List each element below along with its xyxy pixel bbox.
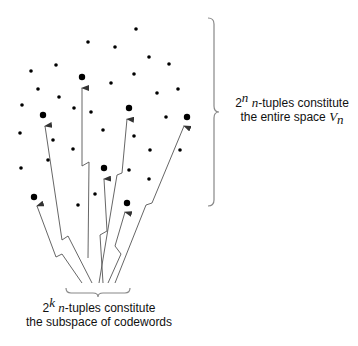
codeword-dot [101,165,107,171]
ntuple-dot [132,72,136,76]
ntuple-dot [89,110,93,114]
ntuple-dot [18,131,22,135]
mapping-arrow [108,212,125,283]
right-brace [208,18,219,206]
ntuple-dot [113,45,117,49]
ntuple-dot [54,63,58,67]
ntuple-dot [36,87,40,91]
ntuple-dot [93,192,97,196]
codeword-dot [124,200,130,206]
mapping-arrows [37,88,184,283]
mapping-arrow [100,179,107,283]
bottom-brace [66,288,130,297]
codeword-dot [40,112,46,118]
ntuple-dot [86,40,90,44]
mapping-arrow [37,206,82,283]
mapping-arrow [45,126,92,283]
ntuple-dot [72,106,76,110]
ntuple-dot [57,95,61,99]
codeword-dot [184,114,190,120]
ntuple-dot [29,69,33,73]
ntuple-dot [127,168,131,172]
mapping-arrow [82,88,89,258]
ntuple-dot [71,147,75,151]
ntuple-dot [155,91,159,95]
ntuple-dot [147,177,151,181]
ntuple-dot [20,103,24,107]
ntuple-dot [134,27,138,31]
ntuple-dot [109,81,113,85]
ntuple-dot [147,55,151,59]
ntuple-dot [132,134,136,138]
codeword-dot [126,105,132,111]
ntuple-dot [101,128,105,132]
ntuple-dot [148,148,152,152]
ntuple-dot [51,138,55,142]
ntuple-dot [176,87,180,91]
ntuple-dot [19,166,23,170]
mapping-arrow [99,119,127,283]
ntuple-dot [46,158,50,162]
entire-space-label: 2n n-tuples constitute the entire space … [226,96,358,124]
ntuple-dot [167,62,171,66]
codeword-subspace-label: 2k n-tuples constitute the subspace of c… [24,301,174,329]
ntuple-dot [76,203,80,207]
ntuple-dot [178,148,182,152]
codeword-dot [79,74,85,80]
codeword-dot [31,194,37,200]
ntuple-dot [164,115,168,119]
